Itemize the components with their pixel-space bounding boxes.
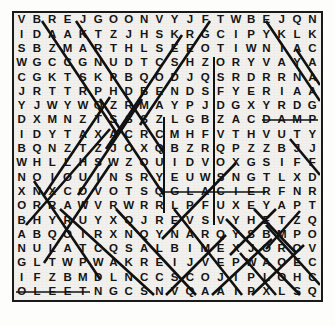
grid-cell[interactable]: K (305, 27, 320, 41)
grid-cell[interactable]: Y (244, 56, 259, 70)
grid-cell[interactable]: Z (244, 142, 259, 156)
grid-cell[interactable]: J (14, 85, 29, 99)
grid-cell[interactable]: A (213, 285, 228, 299)
grid-cell[interactable]: V (91, 199, 106, 213)
grid-cell[interactable]: L (29, 285, 44, 299)
grid-cell[interactable]: N (167, 228, 182, 242)
grid-cell[interactable]: Z (121, 156, 136, 170)
grid-cell[interactable]: Q (45, 228, 60, 242)
grid-cell[interactable]: B (29, 13, 44, 27)
grid-cell[interactable]: R (91, 42, 106, 56)
grid-cell[interactable]: K (91, 70, 106, 84)
grid-cell[interactable]: W (14, 56, 29, 70)
grid-cell[interactable]: N (121, 228, 136, 242)
grid-cell[interactable]: X (45, 185, 60, 199)
grid-cell[interactable]: O (305, 228, 320, 242)
grid-cell[interactable]: G (14, 256, 29, 270)
grid-cell[interactable]: Y (60, 99, 75, 113)
grid-cell[interactable]: Y (259, 27, 274, 41)
grid-cell[interactable]: C (305, 256, 320, 270)
grid-cell[interactable]: G (182, 113, 197, 127)
grid-cell[interactable]: A (106, 256, 121, 270)
grid-cell[interactable]: L (182, 185, 197, 199)
grid-cell[interactable]: I (274, 156, 289, 170)
grid-cell[interactable]: R (45, 199, 60, 213)
grid-cell[interactable]: S (136, 185, 151, 199)
grid-cell[interactable]: R (259, 70, 274, 84)
grid-cell[interactable]: Z (152, 113, 167, 127)
grid-cell[interactable]: W (198, 170, 213, 184)
grid-cell[interactable]: N (106, 170, 121, 184)
letter-grid[interactable]: VBREJGOONVYJFTWBEJQNIDAAKTZJHSKRGCIPYKLK… (14, 13, 320, 299)
grid-cell[interactable]: I (274, 85, 289, 99)
grid-cell[interactable]: S (198, 85, 213, 99)
grid-cell[interactable]: P (305, 113, 320, 127)
grid-cell[interactable]: V (152, 13, 167, 27)
grid-cell[interactable]: Q (29, 142, 44, 156)
grid-cell[interactable]: H (244, 127, 259, 141)
grid-cell[interactable]: C (213, 185, 228, 199)
grid-cell[interactable]: D (29, 127, 44, 141)
grid-cell[interactable]: I (228, 285, 243, 299)
grid-cell[interactable]: Y (259, 199, 274, 213)
grid-cell[interactable]: U (106, 56, 121, 70)
grid-cell[interactable]: H (106, 85, 121, 99)
grid-cell[interactable]: C (152, 127, 167, 141)
grid-cell[interactable]: G (244, 156, 259, 170)
grid-cell[interactable]: J (106, 142, 121, 156)
grid-cell[interactable]: I (228, 27, 243, 41)
grid-cell[interactable]: S (91, 156, 106, 170)
grid-cell[interactable]: S (121, 170, 136, 184)
grid-cell[interactable]: Q (152, 142, 167, 156)
grid-cell[interactable]: L (167, 199, 182, 213)
grid-cell[interactable]: J (198, 99, 213, 113)
grid-cell[interactable]: N (29, 185, 44, 199)
grid-cell[interactable]: E (152, 85, 167, 99)
grid-cell[interactable]: A (60, 199, 75, 213)
grid-cell[interactable]: Z (289, 213, 304, 227)
grid-cell[interactable]: A (182, 228, 197, 242)
grid-cell[interactable]: C (152, 270, 167, 284)
grid-cell[interactable]: T (60, 70, 75, 84)
grid-cell[interactable]: Y (152, 170, 167, 184)
grid-cell[interactable]: D (244, 70, 259, 84)
grid-cell[interactable]: R (60, 213, 75, 227)
grid-cell[interactable]: P (106, 70, 121, 84)
grid-cell[interactable]: N (60, 113, 75, 127)
grid-cell[interactable]: T (45, 85, 60, 99)
grid-cell[interactable]: S (167, 270, 182, 284)
grid-cell[interactable]: K (75, 27, 90, 41)
grid-cell[interactable]: O (60, 228, 75, 242)
grid-cell[interactable]: S (121, 242, 136, 256)
grid-cell[interactable]: V (91, 185, 106, 199)
grid-cell[interactable]: B (198, 113, 213, 127)
grid-cell[interactable]: W (91, 256, 106, 270)
grid-cell[interactable]: D (259, 113, 274, 127)
grid-cell[interactable]: U (274, 127, 289, 141)
grid-cell[interactable]: R (106, 199, 121, 213)
grid-cell[interactable]: O (121, 142, 136, 156)
grid-cell[interactable]: W (121, 199, 136, 213)
grid-cell[interactable]: R (136, 199, 151, 213)
grid-cell[interactable]: D (213, 99, 228, 113)
grid-cell[interactable]: P (91, 85, 106, 99)
grid-cell[interactable]: O (259, 242, 274, 256)
grid-cell[interactable]: N (259, 42, 274, 56)
grid-cell[interactable]: Z (182, 142, 197, 156)
grid-cell[interactable]: H (182, 127, 197, 141)
grid-cell[interactable]: E (244, 185, 259, 199)
grid-cell[interactable]: S (152, 42, 167, 56)
grid-cell[interactable]: O (289, 242, 304, 256)
grid-cell[interactable]: O (136, 156, 151, 170)
grid-cell[interactable]: X (29, 113, 44, 127)
grid-cell[interactable]: J (244, 242, 259, 256)
grid-cell[interactable]: C (91, 242, 106, 256)
grid-cell[interactable]: I (228, 270, 243, 284)
grid-cell[interactable]: V (167, 285, 182, 299)
grid-cell[interactable]: J (289, 142, 304, 156)
grid-cell[interactable]: X (289, 170, 304, 184)
grid-cell[interactable]: F (289, 156, 304, 170)
grid-cell[interactable]: K (121, 256, 136, 270)
grid-cell[interactable]: Q (182, 285, 197, 299)
grid-cell[interactable]: E (259, 13, 274, 27)
